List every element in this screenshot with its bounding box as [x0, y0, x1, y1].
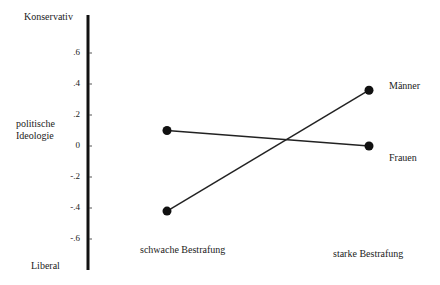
- data-point-marker: [365, 142, 374, 151]
- y-tick-label: .6: [60, 48, 80, 57]
- data-point-marker: [365, 86, 374, 95]
- x-category-label-0: schwache Bestrafung: [140, 245, 225, 255]
- y-bottom-label: Liberal: [31, 261, 60, 271]
- x-category-label-1: starke Bestrafung: [333, 249, 403, 259]
- y-tick-label: -.4: [60, 203, 80, 212]
- y-tick-label: 0: [60, 141, 80, 150]
- y-tick-label: -.6: [60, 234, 80, 243]
- y-tick-label: .4: [60, 79, 80, 88]
- data-point-marker: [163, 126, 172, 135]
- y-axis-title-line1: politische: [16, 119, 55, 129]
- y-axis-title-line2: Ideologie: [16, 131, 54, 141]
- y-tick-label: -.2: [60, 172, 80, 181]
- series-label-frauen: Frauen: [389, 153, 417, 163]
- series-lines: [163, 86, 374, 216]
- series-label-maenner: Männer: [389, 81, 420, 91]
- data-point-marker: [163, 207, 172, 216]
- y-tick-label: .2: [60, 110, 80, 119]
- y-top-label: Konservativ: [24, 12, 73, 22]
